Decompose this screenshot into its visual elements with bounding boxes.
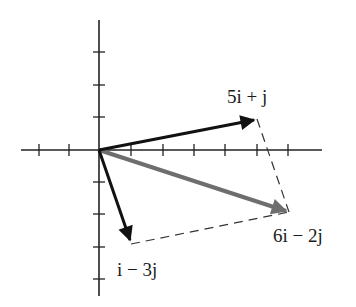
vector-u-arrow — [99, 120, 254, 150]
label-vector-sum: 6i − 2j — [273, 225, 323, 246]
vector-sum-arrow — [99, 150, 286, 211]
x-axis — [21, 144, 322, 156]
vector-v-arrow — [99, 150, 130, 240]
label-vector-v: i − 3j — [117, 259, 157, 280]
vector-diagram: 5i + j i − 3j 6i − 2j — [0, 0, 356, 307]
label-vector-u: 5i + j — [227, 86, 267, 107]
